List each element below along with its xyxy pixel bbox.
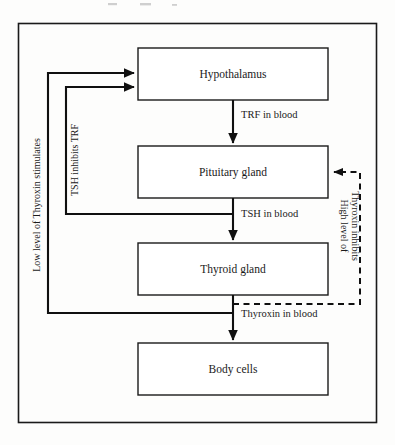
pituitary-label: Pituitary gland — [199, 166, 267, 179]
tsh-inhibits-trf-label: TSH inhibits TRF — [69, 124, 80, 196]
thyroid-feedback-diagram: Hypothalamus Pituitary gland Thyroid gla… — [0, 0, 395, 445]
node-pituitary: Pituitary gland — [138, 146, 328, 198]
flow-chart-svg: Hypothalamus Pituitary gland Thyroid gla… — [0, 0, 395, 445]
trf-in-blood-label: TRF in blood — [241, 109, 298, 120]
low-thyroxin-stimulates-label: Low level of Thyroxin stimulates — [31, 138, 42, 272]
tsh-in-blood-label: TSH in blood — [241, 208, 299, 219]
thyroid-label: Thyroid gland — [200, 263, 266, 276]
high-thyroxin-line2-label: Thyroxin inhibits — [350, 191, 361, 261]
thyroxin-in-blood-label: Thyroxin in blood — [241, 308, 318, 319]
node-body-cells: Body cells — [138, 343, 328, 395]
hypothalamus-label: Hypothalamus — [199, 68, 267, 81]
node-thyroid: Thyroid gland — [138, 243, 328, 295]
high-thyroxin-line1-label: High level of — [339, 200, 350, 253]
node-hypothalamus: Hypothalamus — [138, 48, 328, 100]
body-cells-label: Body cells — [209, 363, 258, 376]
